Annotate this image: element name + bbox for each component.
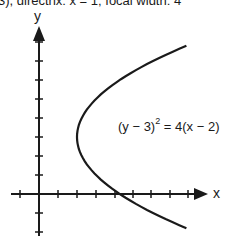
- equation-exponent: 2: [155, 116, 160, 126]
- equation-left: (y − 3): [118, 119, 155, 134]
- parabola-curve: [77, 46, 186, 228]
- y-axis-label: y: [34, 9, 41, 23]
- y-axis-arrow-icon: [33, 26, 45, 41]
- equation-label: (y − 3)2 = 4(x − 2): [118, 118, 219, 134]
- x-axis-arrow-icon: [194, 188, 208, 200]
- x-axis-label: x: [213, 186, 220, 200]
- equation-right: = 4(x − 2): [160, 119, 219, 134]
